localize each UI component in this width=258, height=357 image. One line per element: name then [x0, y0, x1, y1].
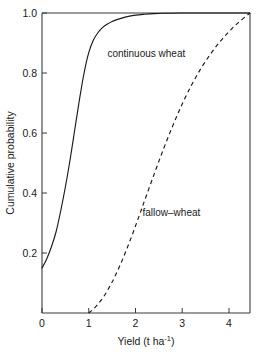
- y-tick-label-0.6: 0.6: [22, 127, 37, 139]
- x-tick-label-3: 3: [179, 317, 185, 329]
- x-tick-label-0: 0: [39, 317, 45, 329]
- x-axis-title-main: Yield (t ha: [117, 335, 164, 347]
- cumulative-probability-chart: 1.0 0.8 0.6 0.4 0.2 0 1 2 3 4 Yield (t h…: [0, 0, 258, 357]
- x-tick-label-2: 2: [133, 317, 139, 329]
- y-axis-ticks: [42, 13, 47, 253]
- x-axis-title: Yield (t ha-1): [117, 334, 174, 347]
- x-tick-label-1: 1: [86, 317, 92, 329]
- x-tick-label-4: 4: [226, 317, 232, 329]
- y-tick-label-0.8: 0.8: [22, 67, 37, 79]
- x-axis-title-tail: ): [171, 335, 175, 347]
- y-axis-title: Cumulative probability: [4, 111, 16, 215]
- chart-figure: 1.0 0.8 0.6 0.4 0.2 0 1 2 3 4 Yield (t h…: [0, 0, 258, 357]
- x-axis-ticks: [42, 308, 229, 313]
- x-tick-labels: 0 1 2 3 4: [39, 317, 232, 329]
- y-tick-label-1.0: 1.0: [22, 7, 37, 19]
- y-tick-labels: 1.0 0.8 0.6 0.4 0.2: [22, 7, 37, 259]
- x-axis-title-superscript: -1: [164, 334, 171, 343]
- series-annotation-fallow-wheat: fallow–wheat: [142, 207, 200, 218]
- y-tick-label-0.2: 0.2: [22, 247, 37, 259]
- series-annotation-continuous-wheat: continuous wheat: [107, 48, 185, 59]
- y-tick-label-0.4: 0.4: [22, 187, 37, 199]
